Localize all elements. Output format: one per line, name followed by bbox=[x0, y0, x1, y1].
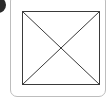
thumbnail-stage bbox=[0, 0, 111, 101]
badge-icon bbox=[0, 0, 6, 13]
image-placeholder-icon bbox=[22, 11, 100, 85]
